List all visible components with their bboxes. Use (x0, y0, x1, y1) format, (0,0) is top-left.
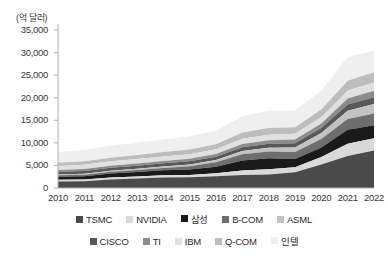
legend-item-CISCO[interactable]: CISCO (90, 235, 129, 247)
legend-label: IBM (185, 236, 201, 247)
legend-label: Q-COM (225, 236, 257, 247)
legend-swatch-icon (175, 238, 182, 245)
x-tick-label: 2022 (357, 192, 388, 203)
legend-item-B-COM[interactable]: B-COM (222, 213, 263, 225)
y-tick-label: 5,000 (0, 159, 48, 170)
legend-item-TI[interactable]: TI (143, 235, 161, 247)
y-tick-label: 35,000 (0, 24, 48, 35)
y-tick-label: 10,000 (0, 137, 48, 148)
stacked-area-chart: (억 달러) 05,00010,00015,00020,00025,00030,… (0, 0, 388, 261)
legend-row-2: CISCOTIIBMQ-COM인텔 (0, 231, 388, 249)
y-tick-label: 20,000 (0, 92, 48, 103)
plot-svg (0, 0, 388, 210)
legend-label: 인텔 (281, 234, 299, 248)
legend-swatch-icon (90, 238, 97, 245)
legend-swatch-icon (222, 216, 229, 223)
legend-swatch-icon (143, 238, 150, 245)
plot-area (0, 0, 388, 210)
legend-item-인텔[interactable]: 인텔 (271, 234, 299, 248)
legend-swatch-icon (76, 216, 83, 223)
legend-item-IBM[interactable]: IBM (175, 235, 201, 247)
legend-swatch-icon (181, 215, 188, 222)
y-tick-label: 25,000 (0, 69, 48, 80)
legend-label: TI (153, 236, 161, 247)
legend-item-ASML[interactable]: ASML (277, 213, 312, 225)
legend-row-1: TSMCNVIDIA삼성B-COMASML (0, 209, 388, 227)
legend-label: CISCO (100, 236, 129, 247)
legend-label: ASML (287, 214, 312, 225)
legend-label: NVIDIA (136, 214, 166, 225)
legend-swatch-icon (271, 237, 278, 244)
legend-item-TSMC[interactable]: TSMC (76, 213, 112, 225)
legend-label: TSMC (86, 214, 112, 225)
legend-item-삼성[interactable]: 삼성 (181, 212, 209, 226)
legend-swatch-icon (126, 216, 133, 223)
y-tick-label: 30,000 (0, 47, 48, 58)
legend-label: 삼성 (191, 212, 209, 226)
y-tick-label: 15,000 (0, 114, 48, 125)
legend-item-NVIDIA[interactable]: NVIDIA (126, 213, 166, 225)
legend-swatch-icon (215, 238, 222, 245)
legend-item-Q-COM[interactable]: Q-COM (215, 235, 257, 247)
legend-label: B-COM (232, 214, 263, 225)
legend-swatch-icon (277, 216, 284, 223)
